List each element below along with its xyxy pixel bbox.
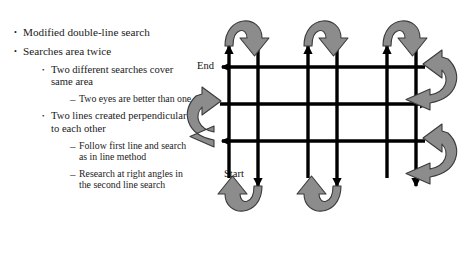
bullet-marker: – [70,140,79,152]
bullet-text: Research at right angles in the second l… [79,168,196,191]
u-turn-arrow-top-1 [225,21,269,56]
diagram-svg [180,0,464,255]
bullet-text: Two eyes are better than one [79,93,196,104]
u-turn-arrow-bottom-2 [297,176,341,211]
bullet-text: Two lines created perpendicular to each … [51,110,196,134]
bullet-text: Modified double-line search [23,26,196,39]
list-item: – Follow first line and search as in lin… [70,140,196,163]
double-line-search-diagram: End Start [180,0,464,255]
left-loop-arrows [187,87,221,147]
label-end: End [197,60,214,71]
top-u-turn-arrows [225,21,427,56]
bullet-marker: • [42,110,51,123]
bullet-text: Searches area twice [23,45,196,58]
right-loop-arrows [406,50,457,184]
loop-arrow-right-bottom [406,124,457,184]
grid-horizontal-lines [220,67,428,141]
bullet-marker: • [42,64,51,77]
bullet-text: Two different searches cover same area [51,64,196,88]
bullet-marker: • [14,45,23,58]
bullet-marker: • [14,26,23,39]
list-item: • Two different searches cover same area [42,64,196,88]
u-turn-arrow-top-2 [304,21,348,56]
bulleted-text-block: • Modified double-line search • Searches… [14,26,196,195]
label-start: Start [224,168,244,179]
list-item: • Modified double-line search [14,26,196,39]
bullet-text: Follow first line and search as in line … [79,140,196,163]
u-turn-arrow-top-3 [383,21,427,56]
loop-arrow-left [187,87,221,147]
list-item: • Two lines created perpendicular to eac… [42,110,196,134]
bullet-marker: – [70,168,79,180]
slide-canvas: • Modified double-line search • Searches… [0,0,464,255]
list-item: • Searches area twice [14,45,196,58]
bottom-u-turn-arrows [218,176,341,211]
list-item: – Research at right angles in the second… [70,168,196,191]
list-item: – Two eyes are better than one [70,93,196,105]
bullet-marker: – [70,93,79,105]
u-turn-arrow-bottom-1 [218,176,262,211]
loop-arrow-right-top [406,50,457,110]
